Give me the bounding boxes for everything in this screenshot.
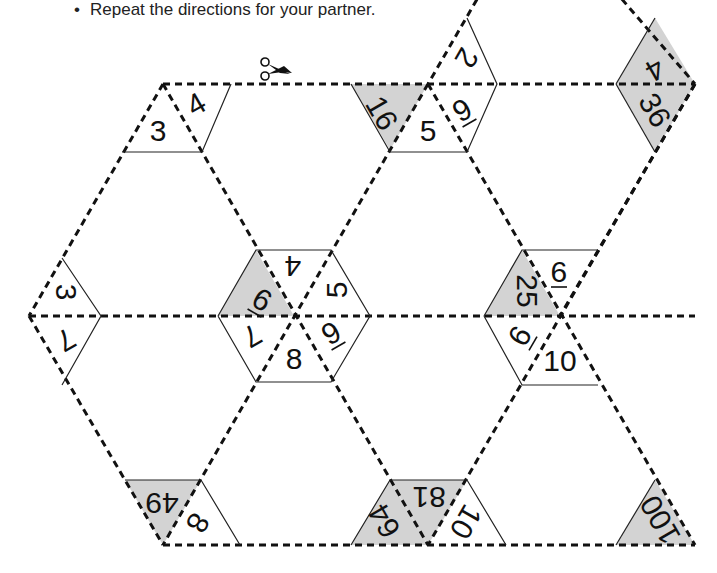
svg-text:7: 7 bbox=[51, 322, 82, 359]
svg-text:3: 3 bbox=[150, 114, 167, 147]
svg-text:4: 4 bbox=[285, 250, 302, 283]
svg-text:9: 9 bbox=[316, 315, 347, 352]
triangle-number: 8 bbox=[286, 342, 303, 375]
svg-text:5: 5 bbox=[320, 282, 353, 299]
svg-text:9: 9 bbox=[551, 256, 568, 289]
svg-text:9: 9 bbox=[447, 92, 478, 129]
triangle-number: 81 bbox=[412, 481, 445, 514]
svg-text:25: 25 bbox=[511, 274, 544, 307]
svg-text:5: 5 bbox=[420, 114, 437, 147]
triangle-number: 7 bbox=[237, 318, 268, 355]
triangle-number: 3 bbox=[50, 284, 83, 301]
scissors-icon bbox=[261, 58, 292, 80]
triangle-number: 10 bbox=[543, 344, 576, 377]
triangle-number: 7 bbox=[51, 322, 82, 359]
svg-text:4: 4 bbox=[181, 86, 212, 123]
triangle-puzzle-sheet: 341659243637945987259910498648110100 bbox=[0, 0, 717, 573]
svg-text:7: 7 bbox=[237, 318, 268, 355]
cut-lines bbox=[29, 0, 695, 545]
svg-text:8: 8 bbox=[180, 508, 217, 539]
triangle-labels: 341659243637945987259910498648110100 bbox=[50, 43, 687, 550]
triangle-number: 9 bbox=[502, 321, 539, 352]
triangle-number: 5 bbox=[420, 114, 437, 147]
svg-text:81: 81 bbox=[412, 481, 445, 514]
svg-text:10: 10 bbox=[543, 344, 576, 377]
svg-text:9: 9 bbox=[502, 321, 539, 352]
triangle-number: 5 bbox=[320, 282, 353, 299]
triangle-number: 4 bbox=[181, 86, 212, 123]
svg-text:49: 49 bbox=[145, 487, 178, 520]
triangle-number: 3 bbox=[150, 114, 167, 147]
triangle-number: 4 bbox=[285, 250, 302, 283]
svg-text:8: 8 bbox=[286, 342, 303, 375]
triangle-number: 9 bbox=[316, 315, 347, 352]
triangle-number: 49 bbox=[145, 487, 178, 520]
triangle-number: 25 bbox=[511, 274, 544, 307]
triangle-number: 9 bbox=[551, 256, 568, 289]
shaded-regions bbox=[125, 18, 695, 545]
svg-text:3: 3 bbox=[50, 284, 83, 301]
triangle-number: 9 bbox=[447, 92, 478, 129]
triangle-number: 8 bbox=[180, 508, 217, 539]
